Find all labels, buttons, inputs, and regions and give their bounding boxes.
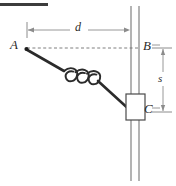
dimension-s-arrowhead-bottom: [161, 105, 165, 111]
rod-segment-lower: [98, 81, 127, 107]
spring-coil: [64, 68, 100, 84]
label-point-c: C: [144, 102, 153, 115]
label-distance-d: d: [75, 21, 81, 33]
physics-diagram-svg: [0, 0, 176, 186]
label-point-a: A: [10, 38, 18, 51]
rod-segment-upper: [27, 50, 65, 72]
dimension-d-arrowhead-left: [28, 28, 34, 33]
point-a-marker: [24, 47, 28, 51]
slider-block: [126, 94, 145, 120]
dimension-d-arrowhead-right: [124, 28, 130, 33]
top-rule: [0, 3, 48, 6]
spring-loop-1: [64, 68, 77, 81]
label-distance-s: s: [158, 73, 162, 84]
spring-loop-2: [76, 70, 89, 83]
dimension-s-arrowhead-top: [161, 49, 165, 55]
label-point-b: B: [143, 39, 151, 52]
figure-canvas: A B C d s: [0, 0, 176, 186]
